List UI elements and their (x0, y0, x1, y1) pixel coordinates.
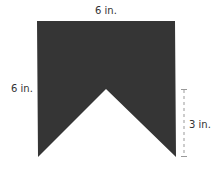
left-height-label: 6 in. (11, 83, 33, 94)
top-width-label: 6 in. (95, 5, 117, 16)
notch-depth-label: 3 in. (189, 119, 211, 130)
diagram-canvas (0, 0, 221, 170)
notch-dimension-line (181, 90, 187, 157)
notched-banner-shape (37, 21, 176, 157)
